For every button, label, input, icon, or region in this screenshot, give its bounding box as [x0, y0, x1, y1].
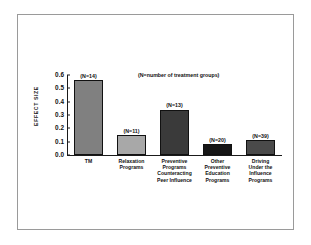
- category-label-line: Under the: [249, 164, 273, 170]
- y-axis-tick-mark: [67, 88, 70, 89]
- category-label-line: Driving: [252, 158, 270, 164]
- category-label-line: TM: [85, 158, 92, 164]
- category-label-line: Education: [205, 170, 230, 176]
- category-label-line: Programs: [206, 177, 230, 183]
- y-axis-label: EFFECT SIZE: [33, 71, 39, 141]
- category-label-line: Preventive: [162, 158, 188, 164]
- y-axis-tick-mark: [67, 155, 70, 156]
- y-axis-tick-label: 0.4: [42, 98, 64, 104]
- bar: [74, 80, 103, 155]
- y-axis-tick-label: 0.1: [42, 138, 64, 144]
- x-axis-category-label: RelaxationPrograms: [108, 158, 155, 170]
- y-axis-tick-label: 0.5: [42, 85, 64, 91]
- y-axis-tick-mark: [67, 141, 70, 142]
- y-axis-tick-mark: [67, 128, 70, 129]
- bar-value-label: (N=13): [152, 102, 197, 108]
- bar: [203, 144, 232, 155]
- x-axis-category-label: DrivingUnder theInfluencePrograms: [237, 158, 284, 183]
- figure-frame: EFFECT SIZE 0.00.10.20.30.40.50.6 (N=num…: [17, 14, 294, 230]
- category-label-line: Preventive: [205, 164, 231, 170]
- bar-value-label: (N=11): [109, 128, 154, 134]
- category-label-line: Programs: [249, 177, 273, 183]
- bar-value-label: (N=20): [195, 137, 240, 143]
- y-axis-tick-label: 0.3: [42, 112, 64, 118]
- bar-value-label: (N=39): [238, 133, 283, 139]
- y-axis-tick-mark: [67, 115, 70, 116]
- x-axis-category-label: PreventiveProgramsCounteractingPeer Infl…: [151, 158, 198, 183]
- y-axis-tick-mark: [67, 75, 70, 76]
- y-axis-tick-label: 0.6: [42, 72, 64, 78]
- category-label-line: Relaxation: [119, 158, 145, 164]
- category-label-line: Programs: [120, 164, 144, 170]
- bar: [246, 140, 275, 155]
- bar-chart: EFFECT SIZE 0.00.10.20.30.40.50.6 (N=num…: [18, 15, 295, 231]
- category-label-line: Other: [211, 158, 225, 164]
- y-axis-tick-label: 0.0: [42, 152, 64, 158]
- bars-container: (N=14)(N=11)(N=13)(N=20)(N=39): [67, 75, 282, 155]
- x-axis-category-label: TM: [65, 158, 112, 164]
- bar: [117, 135, 146, 155]
- y-axis-tick-label: 0.2: [42, 125, 64, 131]
- category-label-line: Programs: [163, 164, 187, 170]
- category-label-line: Peer Influence: [157, 177, 192, 183]
- x-axis-category-label: OtherPreventiveEducationPrograms: [194, 158, 241, 183]
- category-label-line: Influence: [249, 170, 271, 176]
- y-axis-tick-mark: [67, 101, 70, 102]
- y-axis-tick-labels: 0.00.10.20.30.40.50.6: [42, 75, 64, 155]
- bar: [160, 110, 189, 155]
- x-axis-line: [67, 155, 282, 156]
- bar-value-label: (N=14): [66, 73, 111, 79]
- category-label-line: Counteracting: [157, 170, 192, 176]
